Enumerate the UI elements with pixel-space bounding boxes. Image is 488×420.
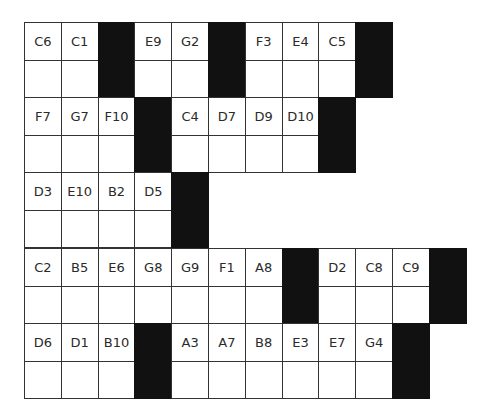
answer-box[interactable] <box>282 135 320 174</box>
grid-cell[interactable]: D9 <box>245 97 282 172</box>
grid-cell[interactable]: C8 <box>355 248 392 323</box>
black-block-bottom <box>392 361 430 400</box>
grid-cell[interactable]: C5 <box>318 22 355 97</box>
grid-cell[interactable]: D1 <box>61 323 98 398</box>
answer-box[interactable] <box>98 210 136 249</box>
grid-cell[interactable]: C2 <box>24 248 61 323</box>
grid-cell[interactable]: G4 <box>355 323 392 398</box>
grid-cell[interactable]: B5 <box>61 248 98 323</box>
answer-box[interactable] <box>318 286 356 325</box>
answer-box[interactable] <box>245 135 283 174</box>
grid-cell[interactable]: D6 <box>24 323 61 398</box>
answer-box[interactable] <box>318 60 356 99</box>
answer-box[interactable] <box>208 361 246 400</box>
answer-box[interactable] <box>171 361 209 400</box>
grid-cell[interactable]: C6 <box>24 22 61 97</box>
cell-label: E7 <box>318 323 356 362</box>
answer-box[interactable] <box>245 60 283 99</box>
grid-cell[interactable]: C4 <box>171 97 208 172</box>
answer-box[interactable] <box>98 361 136 400</box>
grid-row: D3E10B2D5 <box>24 172 208 247</box>
answer-box[interactable] <box>171 135 209 174</box>
grid-cell[interactable]: G8 <box>134 248 171 323</box>
grid-cell[interactable]: D2 <box>318 248 355 323</box>
cell-label: E3 <box>282 323 320 362</box>
black-block-top <box>355 22 393 61</box>
grid-cell[interactable]: B2 <box>98 172 135 247</box>
grid-cell[interactable]: A7 <box>208 323 245 398</box>
answer-box[interactable] <box>24 286 62 325</box>
grid-cell[interactable]: G2 <box>171 22 208 97</box>
answer-box[interactable] <box>61 286 99 325</box>
answer-box[interactable] <box>171 60 209 99</box>
answer-box[interactable] <box>392 286 430 325</box>
grid-cell[interactable]: D5 <box>134 172 171 247</box>
black-block <box>318 97 355 172</box>
grid-cell[interactable]: F10 <box>98 97 135 172</box>
answer-box[interactable] <box>134 210 172 249</box>
grid-cell[interactable]: E6 <box>98 248 135 323</box>
grid-cell[interactable]: C1 <box>61 22 98 97</box>
cell-label: F10 <box>98 97 136 136</box>
grid-cell[interactable]: D10 <box>282 97 319 172</box>
black-block <box>134 323 171 398</box>
grid-cell[interactable]: E7 <box>318 323 355 398</box>
cell-label: D3 <box>24 172 62 211</box>
black-block-top <box>282 248 320 287</box>
grid-cell[interactable]: E9 <box>134 22 171 97</box>
answer-box[interactable] <box>208 135 246 174</box>
black-block <box>355 22 392 97</box>
answer-box[interactable] <box>61 210 99 249</box>
answer-box[interactable] <box>24 361 62 400</box>
cell-label: E6 <box>98 248 136 287</box>
cell-label: B10 <box>98 323 136 362</box>
answer-box[interactable] <box>61 135 99 174</box>
answer-box[interactable] <box>171 286 209 325</box>
black-block-top <box>98 22 136 61</box>
answer-box[interactable] <box>282 60 320 99</box>
answer-box[interactable] <box>282 361 320 400</box>
grid-cell[interactable]: F1 <box>208 248 245 323</box>
grid-cell[interactable]: G9 <box>171 248 208 323</box>
grid-cell[interactable]: G7 <box>61 97 98 172</box>
answer-box[interactable] <box>318 361 356 400</box>
answer-box[interactable] <box>134 60 172 99</box>
answer-box[interactable] <box>24 135 62 174</box>
grid-cell[interactable]: B10 <box>98 323 135 398</box>
grid-cell[interactable]: F3 <box>245 22 282 97</box>
answer-box[interactable] <box>245 361 283 400</box>
answer-box[interactable] <box>208 286 246 325</box>
grid-row: C2B5E6G8G9F1A8D2C8C9 <box>24 248 466 323</box>
grid-cell[interactable]: A3 <box>171 323 208 398</box>
cell-label: G2 <box>171 22 209 61</box>
answer-box[interactable] <box>98 135 136 174</box>
black-block <box>282 248 319 323</box>
black-block-top <box>318 97 356 136</box>
answer-box[interactable] <box>245 286 283 325</box>
answer-box[interactable] <box>24 210 62 249</box>
grid-cell[interactable]: E3 <box>282 323 319 398</box>
grid-cell[interactable]: F7 <box>24 97 61 172</box>
grid-cell[interactable]: E10 <box>61 172 98 247</box>
cell-label: D1 <box>61 323 99 362</box>
black-block-top <box>171 172 209 211</box>
answer-box[interactable] <box>61 60 99 99</box>
grid-cell[interactable]: C9 <box>392 248 429 323</box>
answer-box[interactable] <box>98 286 136 325</box>
answer-box[interactable] <box>61 361 99 400</box>
grid-cell[interactable]: D7 <box>208 97 245 172</box>
answer-box[interactable] <box>24 60 62 99</box>
black-block-bottom <box>134 135 172 174</box>
black-block-bottom <box>355 60 393 99</box>
grid-cell[interactable]: D3 <box>24 172 61 247</box>
answer-box[interactable] <box>134 286 172 325</box>
grid-cell[interactable]: B8 <box>245 323 282 398</box>
answer-box[interactable] <box>355 361 393 400</box>
grid-cell[interactable]: A8 <box>245 248 282 323</box>
grid-cell[interactable]: E4 <box>282 22 319 97</box>
answer-box[interactable] <box>355 286 393 325</box>
cell-label: D6 <box>24 323 62 362</box>
cell-label: C2 <box>24 248 62 287</box>
cell-label: G7 <box>61 97 99 136</box>
black-block <box>208 22 245 97</box>
